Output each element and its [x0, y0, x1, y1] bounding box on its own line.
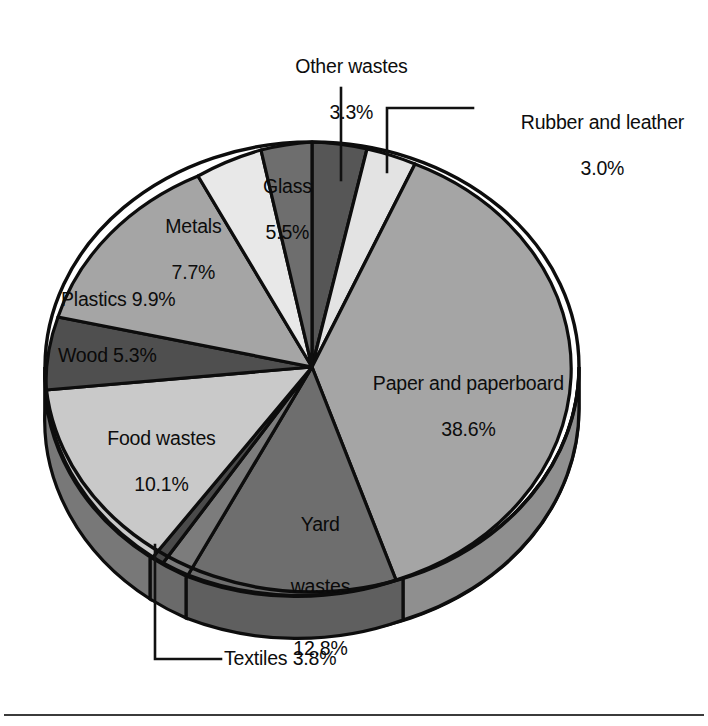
label-plastics: Plastics 9.9%	[61, 288, 175, 311]
label-glass-name: Glass	[263, 175, 312, 197]
label-food-wastes: Food wastes 10.1%	[61, 404, 241, 519]
label-glass-value: 5.5%	[266, 221, 310, 243]
label-rubber-and-leather: Rubber and leather 3.0%	[478, 88, 706, 203]
label-food-wastes-name: Food wastes	[107, 427, 215, 449]
label-rubber-and-leather-value: 3.0%	[581, 157, 625, 179]
label-paper-and-paperboard-name: Paper and paperboard	[373, 372, 564, 394]
label-other-wastes: Other wastes 3.3%	[238, 32, 444, 147]
label-paper-and-paperboard: Paper and paperboard 38.6%	[335, 349, 581, 464]
label-other-wastes-name: Other wastes	[295, 55, 407, 77]
label-textiles: Textiles 3.8%	[224, 647, 336, 670]
label-rubber-and-leather-name: Rubber and leather	[521, 111, 684, 133]
bottom-divider	[4, 714, 704, 716]
label-metals-name: Metals	[165, 215, 221, 237]
label-metals-value: 7.7%	[172, 261, 216, 283]
label-glass: Glass 5.5%	[225, 152, 329, 267]
label-yard-wastes-name-line2: wastes	[291, 575, 351, 597]
label-yard-wastes-name-line1: Yard	[301, 513, 340, 535]
label-other-wastes-value: 3.3%	[330, 101, 374, 123]
label-wood: Wood 5.3%	[58, 344, 157, 367]
label-food-wastes-value: 10.1%	[134, 473, 188, 495]
pie-chart-figure: Other wastes 3.3% Rubber and leather 3.0…	[0, 0, 708, 726]
label-paper-and-paperboard-value: 38.6%	[441, 418, 495, 440]
